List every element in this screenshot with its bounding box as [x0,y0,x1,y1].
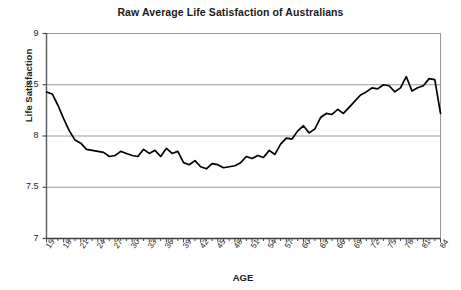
y-tick-label: 8 [9,130,39,140]
y-tick-label: 9 [9,28,39,38]
y-tick-label: 8.5 [9,79,39,89]
y-tick-label: 7.5 [9,181,39,191]
chart-figure: Raw Average Life Satisfaction of Austral… [0,0,461,290]
data-line-group [47,77,441,169]
gridlines [47,34,441,239]
y-tick-label: 7 [9,233,39,243]
data-line-raw-average-life-satisfaction [47,77,441,169]
axis-ticks [43,34,441,243]
